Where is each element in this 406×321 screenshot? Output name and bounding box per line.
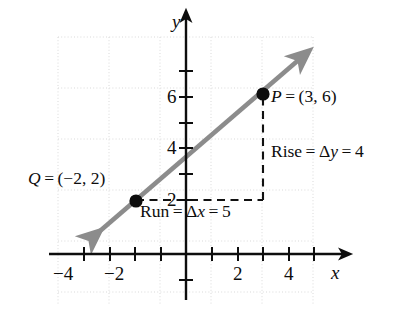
x-tick-label-2: 2 [233,264,243,283]
y-tick-label-4: 4 [167,138,177,157]
rise-suffix-text: = 4 [338,141,364,161]
x-axis-label: x [331,263,339,282]
y-axis [179,16,193,300]
run-variable: x [197,201,205,221]
graph-figure: y x −4 −2 2 4 2 4 6 P = (3, 6) Q = (−2, … [0,0,406,321]
point-p-coords: = (3, 6) [282,86,337,106]
point-q-name: Q [28,168,41,188]
x-tick-label-neg2: −2 [104,264,124,283]
run-prefix-text: Run = Δ [140,201,197,221]
run-suffix-text: = 5 [205,201,231,221]
point-q-coords: = (−2, 2) [41,168,106,188]
point-p-marker [256,87,269,100]
point-p-name: P [271,86,282,106]
y-axis-label: y [172,12,180,31]
point-q-label: Q = (−2, 2) [28,170,105,188]
point-p-label: P = (3, 6) [271,88,337,106]
x-tick-label-4: 4 [284,264,294,283]
rise-variable: y [330,141,338,161]
rise-annotation: Rise = Δy = 4 [271,143,364,161]
x-axis [49,247,345,261]
x-tick-label-neg4: −4 [53,264,73,283]
run-annotation: Run = Δx = 5 [140,203,231,221]
rise-prefix-text: Rise = Δ [271,141,330,161]
y-tick-label-6: 6 [167,87,177,106]
